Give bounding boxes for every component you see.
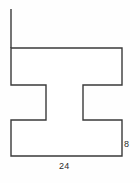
geometry-figure-canvas: 8 24 <box>0 0 140 183</box>
dimension-label-width: 24 <box>59 161 69 171</box>
i-beam-outline-shape <box>11 48 122 156</box>
geometry-figure-svg <box>0 0 140 183</box>
dimension-label-height: 8 <box>124 139 129 149</box>
